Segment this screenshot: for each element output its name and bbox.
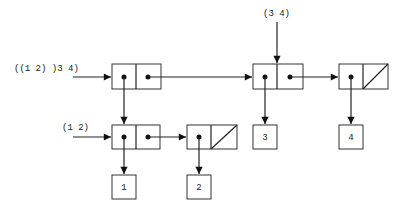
box-pointer-diagram: ((1 2) )3 4) (1 2) (3 4) <box>0 0 400 213</box>
label-whole-list: ((1 2) )3 4) <box>14 64 79 74</box>
cons-cell-3 <box>339 64 388 89</box>
label-tail: (3 4) <box>263 9 290 19</box>
svg-text:2: 2 <box>196 183 201 193</box>
atom-4: 4 <box>339 125 363 149</box>
atom-2: 2 <box>187 175 211 199</box>
atom-3: 3 <box>253 125 277 149</box>
cons-cell-5 <box>187 125 237 149</box>
svg-text:1: 1 <box>121 183 126 193</box>
svg-text:3: 3 <box>262 133 267 143</box>
label-sublist: (1 2) <box>62 123 89 133</box>
atom-1: 1 <box>112 175 136 199</box>
svg-text:4: 4 <box>348 133 353 143</box>
